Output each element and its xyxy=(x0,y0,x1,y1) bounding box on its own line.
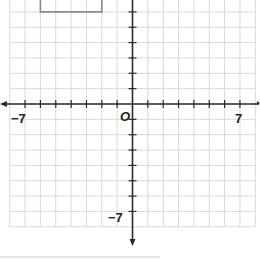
x-axis-arrow-left-icon xyxy=(0,101,7,107)
y-axis-arrow-down-icon xyxy=(130,239,136,246)
x-axis-label-neg-7: −7 xyxy=(11,112,26,125)
axes xyxy=(0,0,260,246)
divider xyxy=(0,256,160,258)
coordinate-plane xyxy=(0,0,260,259)
x-axis-label-7: 7 xyxy=(235,112,242,125)
origin-label: O xyxy=(120,110,130,123)
y-axis-label-neg-7: −7 xyxy=(108,211,123,224)
